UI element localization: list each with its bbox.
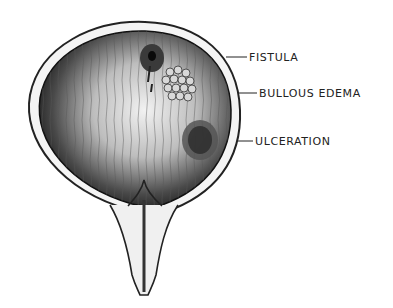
ulceration-area xyxy=(182,120,218,160)
label-fistula: FISTULA xyxy=(249,52,298,64)
label-bullous-edema: BULLOUS EDEMA xyxy=(259,88,361,100)
bladder-wall xyxy=(29,22,240,213)
bladder-illustration xyxy=(0,0,393,308)
label-ulceration: ULCERATION xyxy=(255,136,331,148)
